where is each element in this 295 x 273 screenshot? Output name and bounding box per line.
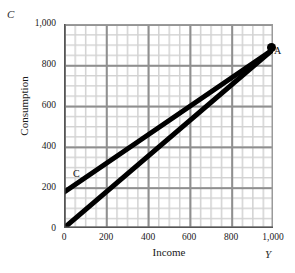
y-axis-variable-label: C (7, 8, 14, 20)
x-tick-label: 800 (214, 232, 248, 242)
x-tick-label: 0 (47, 232, 81, 242)
x-tick-label: 1,000 (256, 232, 290, 242)
y-tick-label: 400 (22, 141, 56, 151)
y-tick-label: 1,000 (22, 18, 56, 28)
y-tick-label: 600 (22, 100, 56, 110)
x-tick-label: 600 (172, 232, 206, 242)
plot-area (64, 24, 273, 228)
chart-svg (64, 24, 273, 228)
y-tick-label: 800 (22, 59, 56, 69)
point-a-label: A (274, 45, 281, 56)
x-axis-title: Income (64, 246, 274, 258)
y-tick-label: 200 (22, 182, 56, 192)
major-gridlines (64, 24, 273, 228)
x-tick-label: 200 (89, 232, 123, 242)
consumption-function-chart: C Y Consumption Income 1,000 800 600 400… (0, 0, 295, 273)
x-tick-label: 400 (131, 232, 165, 242)
curve-c-label: C (73, 168, 80, 179)
